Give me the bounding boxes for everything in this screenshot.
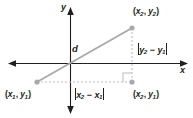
point-x1y1 <box>34 79 39 84</box>
sub-y: 1 <box>153 93 156 100</box>
point-x2y1 <box>129 79 134 84</box>
sub-y: 1 <box>25 93 28 100</box>
paren-close: ) <box>156 89 159 99</box>
sub-1: 1 <box>99 93 102 100</box>
point-label-x1y1: (x1, y1) <box>5 90 31 99</box>
distance-label: d <box>72 44 78 54</box>
vertical-leg-length-label: y2 − y1 <box>137 43 168 55</box>
sub-2: 2 <box>144 48 147 55</box>
minus-op: − <box>147 45 157 55</box>
minus-op: − <box>84 90 94 100</box>
y-axis <box>67 7 74 114</box>
point-label-x2y2: (x2, y2) <box>133 7 159 16</box>
y-axis-label: y <box>61 3 66 12</box>
sub-2: 2 <box>81 93 84 100</box>
sub-x: 2 <box>140 93 143 100</box>
sub-1: 1 <box>162 48 165 55</box>
abs-bar-right <box>166 43 167 55</box>
horizontal-leg-length-label: x2 − x1 <box>74 88 105 100</box>
sub-y: 2 <box>153 10 156 17</box>
abs-bar-right <box>103 88 104 100</box>
sub-x: 2 <box>140 10 143 17</box>
sub-x: 1 <box>12 93 15 100</box>
distance-formula-diagram: y x d (x2, y2) (x1, y1) (x2, y1) y2 − y1… <box>0 0 193 118</box>
paren-close: ) <box>28 89 31 99</box>
point-label-x2y1: (x2, y1) <box>133 90 159 99</box>
x-axis-label: x <box>180 66 185 75</box>
x-axis-left-arrowhead <box>8 60 16 67</box>
x-axis <box>8 60 188 67</box>
hypotenuse-segment <box>37 28 132 82</box>
y-axis-top-arrowhead <box>67 7 74 15</box>
coordinate-plane-graphic <box>0 0 193 118</box>
point-x2y2 <box>129 25 134 30</box>
paren-close: ) <box>156 6 159 16</box>
y-axis-bottom-arrowhead <box>67 106 74 114</box>
